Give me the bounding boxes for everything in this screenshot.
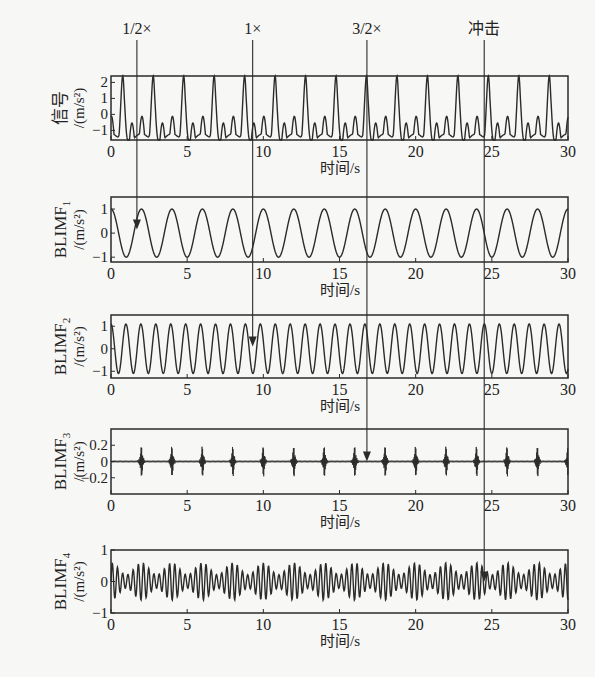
annotation-arrow-1: 1/2×	[122, 20, 151, 230]
x-tick-label: 25	[484, 143, 500, 160]
arrowhead-icon	[133, 220, 141, 230]
x-axis-label: 时间/s	[320, 282, 360, 298]
x-tick-label: 10	[255, 616, 271, 633]
x-tick-label: 25	[484, 616, 500, 633]
annotation-arrow-2: 1×	[244, 20, 261, 347]
x-tick-label: 20	[408, 616, 424, 633]
x-tick-label: 0	[107, 616, 115, 633]
x-tick-label: 15	[332, 143, 348, 160]
x-tick-label: 5	[183, 143, 191, 160]
figure: 051015202530时间/s−1012信号/(m/s²)0510152025…	[0, 0, 595, 677]
signal-trace	[111, 324, 568, 374]
y-axis-label: BLIMF3	[51, 432, 72, 490]
x-tick-label: 15	[332, 265, 348, 282]
annotation-label: 冲击	[468, 20, 500, 37]
y-tick-label: 0	[101, 454, 109, 470]
x-axis-label: 时间/s	[320, 633, 360, 649]
x-tick-label: 30	[560, 616, 576, 633]
x-tick-label: 10	[255, 381, 271, 398]
panel-4: 051015202530时间/s−0.200.2BLIMF3/(m/s²)	[51, 429, 576, 530]
x-tick-label: 0	[107, 143, 115, 160]
y-axis-unit: /(m/s²)	[71, 561, 88, 601]
y-axis-label: BLIMF1	[51, 201, 72, 258]
y-tick-label: 2	[101, 74, 109, 90]
x-tick-label: 25	[484, 265, 500, 282]
x-tick-label: 15	[332, 381, 348, 398]
y-tick-label: 0	[101, 106, 109, 122]
signal-trace	[111, 209, 568, 257]
x-tick-label: 20	[408, 143, 424, 160]
y-tick-label: 0	[101, 574, 109, 590]
x-tick-label: 5	[183, 265, 191, 282]
annotation-label: 3/2×	[352, 20, 381, 37]
y-tick-label: 0	[101, 341, 109, 357]
x-tick-label: 20	[408, 381, 424, 398]
x-tick-label: 30	[560, 381, 576, 398]
arrowhead-icon	[249, 337, 257, 347]
x-axis-label: 时间/s	[320, 398, 360, 414]
x-tick-label: 10	[255, 265, 271, 282]
signal-trace	[111, 447, 568, 477]
x-axis-label: 时间/s	[320, 160, 360, 176]
x-tick-label: 25	[484, 497, 500, 514]
x-tick-label: 5	[183, 381, 191, 398]
y-axis-unit: /(m/s²)	[71, 209, 88, 249]
y-axis-label: 信号	[51, 91, 70, 125]
x-tick-label: 0	[107, 265, 115, 282]
x-tick-label: 25	[484, 381, 500, 398]
y-axis-unit: /(m/s²)	[71, 326, 88, 366]
x-tick-label: 5	[183, 616, 191, 633]
x-tick-label: 15	[332, 497, 348, 514]
y-axis-unit: /(m/s²)	[71, 88, 88, 128]
y-axis-label: BLIMF4	[51, 552, 72, 610]
panel-1: 051015202530时间/s−1012信号/(m/s²)	[51, 74, 576, 176]
y-tick-label: 1	[101, 542, 109, 558]
x-tick-label: 30	[560, 265, 576, 282]
signal-trace	[111, 76, 568, 140]
panel-2: 051015202530时间/s−101BLIMF1/(m/s²)	[51, 197, 576, 298]
x-tick-label: 20	[408, 497, 424, 514]
y-tick-label: −1	[92, 122, 108, 138]
plot-frame	[111, 197, 568, 262]
y-tick-label: 1	[101, 201, 109, 217]
annotation-label: 1/2×	[122, 20, 151, 37]
y-axis-label: BLIMF2	[51, 318, 72, 375]
panel-5: 051015202530时间/s−101BLIMF4/(m/s²)	[51, 542, 576, 649]
x-tick-label: 5	[183, 497, 191, 514]
signal-trace	[111, 563, 568, 600]
annotation-label: 1×	[244, 20, 261, 37]
y-tick-label: 0.2	[89, 437, 108, 453]
x-tick-label: 10	[255, 497, 271, 514]
x-tick-label: 15	[332, 616, 348, 633]
x-tick-label: 10	[255, 143, 271, 160]
y-tick-label: 0	[101, 225, 109, 241]
panel-3: 051015202530时间/s−101BLIMF2/(m/s²)	[51, 315, 576, 414]
x-tick-label: 20	[408, 265, 424, 282]
x-tick-label: 0	[107, 381, 115, 398]
y-tick-label: −1	[92, 605, 108, 621]
y-tick-label: 1	[101, 318, 109, 334]
x-axis-label: 时间/s	[320, 514, 360, 530]
x-tick-label: 0	[107, 497, 115, 514]
x-tick-label: 30	[560, 143, 576, 160]
annotation-arrow-3: 3/2×	[352, 20, 381, 462]
y-tick-label: −1	[92, 249, 108, 265]
y-tick-label: −1	[92, 363, 108, 379]
x-tick-label: 30	[560, 497, 576, 514]
y-tick-label: 1	[101, 90, 109, 106]
y-axis-unit: /(m/s²)	[71, 441, 88, 481]
